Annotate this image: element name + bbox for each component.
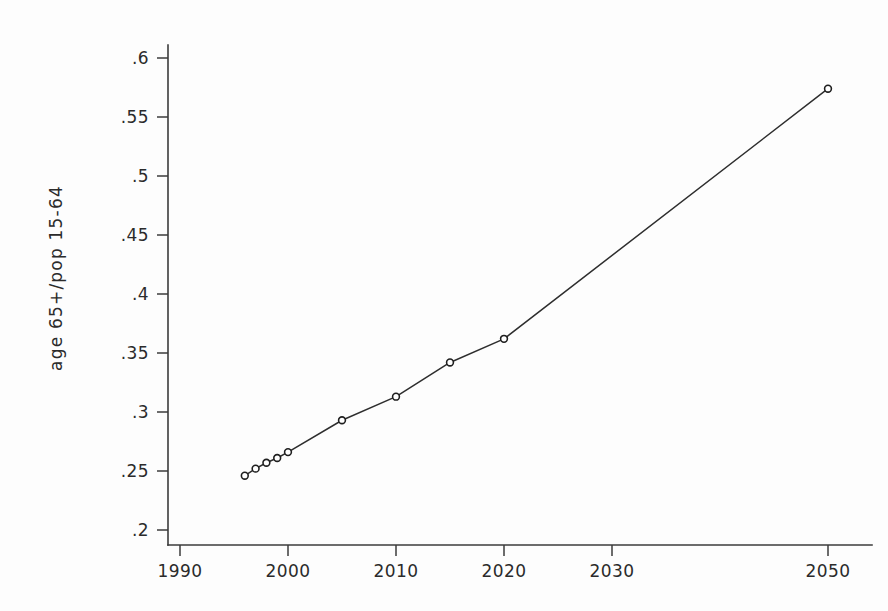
chart-container: .2.25.3.35.4.45.5.55.6 19902000201020202…: [0, 0, 888, 611]
data-line-series: [245, 89, 828, 476]
y-tick-label: .6: [132, 48, 149, 68]
x-tick-label: 2000: [266, 561, 311, 581]
data-point-2050: [825, 85, 832, 92]
x-tick-label: 2010: [374, 561, 419, 581]
y-axis-title: age 65+/pop 15-64: [46, 185, 66, 371]
data-point-2020: [501, 335, 508, 342]
y-tick-label: .5: [132, 166, 149, 186]
x-tick-label: 2020: [482, 561, 527, 581]
x-tick-label: 1990: [158, 561, 203, 581]
data-point-2000: [285, 449, 292, 456]
data-point-2005: [339, 417, 346, 424]
y-tick-label: .3: [132, 402, 149, 422]
data-point-1999: [274, 455, 281, 462]
data-point-markers: [241, 85, 831, 479]
data-point-1998: [263, 459, 270, 466]
data-point-2010: [393, 393, 400, 400]
line-chart: .2.25.3.35.4.45.5.55.6 19902000201020202…: [0, 0, 888, 611]
y-tick-label: .55: [121, 107, 149, 127]
x-axis-ticks: [180, 545, 828, 556]
y-axis-ticks: [157, 58, 168, 530]
data-point-1997: [252, 465, 259, 472]
x-tick-label: 2030: [590, 561, 635, 581]
y-tick-label: .25: [121, 461, 149, 481]
x-axis-tick-labels: 199020002010202020302050: [158, 561, 851, 581]
y-tick-label: .45: [121, 225, 149, 245]
data-point-1996: [241, 472, 248, 479]
data-point-2015: [447, 359, 454, 366]
y-tick-label: .2: [132, 520, 149, 540]
y-tick-label: .4: [132, 284, 149, 304]
y-axis-tick-labels: .2.25.3.35.4.45.5.55.6: [121, 48, 149, 540]
y-tick-label: .35: [121, 343, 149, 363]
x-tick-label: 2050: [806, 561, 851, 581]
